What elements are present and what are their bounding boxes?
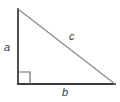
triangle-drawing bbox=[0, 0, 120, 102]
label-leg-b: b bbox=[62, 87, 68, 98]
right-angle-marker-icon bbox=[18, 72, 30, 84]
triangle-hypotenuse-c-line bbox=[18, 9, 115, 84]
label-leg-a: a bbox=[4, 42, 10, 53]
label-hypotenuse-c: c bbox=[69, 31, 75, 42]
right-triangle-diagram: a b c bbox=[0, 0, 120, 102]
